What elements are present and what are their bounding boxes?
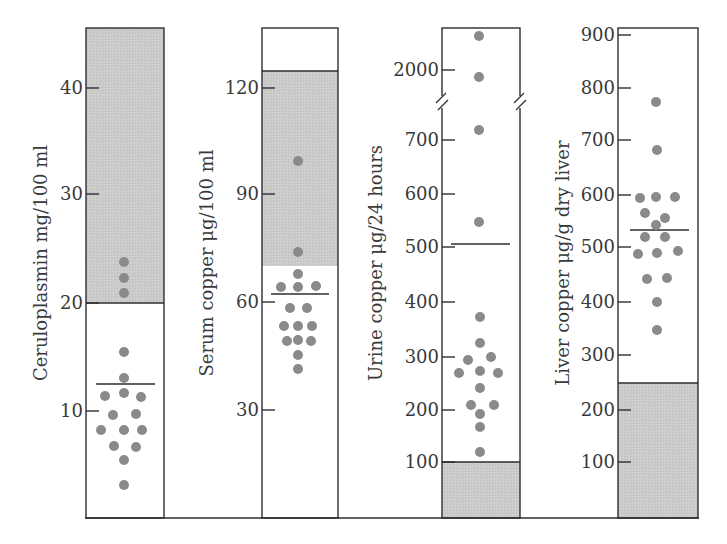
y-axis-title: Liver copper μg/g dry liver: [552, 140, 573, 386]
data-point: [651, 97, 661, 107]
y-axis-title: Ceruloplasmin mg/100 ml: [30, 145, 51, 381]
data-point: [311, 281, 321, 291]
y-tick-label: 2000: [393, 59, 439, 80]
data-point: [475, 409, 485, 419]
y-axis-title: Serum copper μg/100 ml: [196, 149, 217, 376]
normal-range-shade: [618, 383, 698, 518]
data-point: [474, 125, 484, 135]
data-point: [293, 269, 303, 279]
data-point: [475, 338, 485, 348]
data-point: [463, 355, 473, 365]
data-point: [493, 368, 503, 378]
y-tick-label: 10: [60, 400, 83, 421]
data-point: [454, 368, 464, 378]
data-point: [109, 441, 119, 451]
y-tick-label: 600: [405, 183, 439, 204]
y-tick-label: 100: [405, 451, 439, 472]
panel-frame: [442, 28, 520, 518]
data-point: [307, 321, 317, 331]
y-tick-label: 300: [405, 346, 439, 367]
data-point: [651, 220, 661, 230]
data-point: [673, 246, 683, 256]
data-point: [489, 400, 499, 410]
data-point: [293, 364, 303, 374]
data-point: [119, 388, 129, 398]
data-point: [652, 248, 662, 258]
y-tick-label: 100: [581, 451, 615, 472]
panel-2: 120906030Serum copper μg/100 ml: [196, 28, 339, 518]
y-tick-label: 200: [581, 399, 615, 420]
data-point: [119, 373, 129, 383]
data-point: [131, 442, 141, 452]
copper-metabolism-chart: 40302010Ceruloplasmin mg/100 ml120906030…: [0, 0, 727, 544]
data-point: [119, 455, 129, 465]
data-point: [276, 282, 286, 292]
y-tick-label: 700: [581, 129, 615, 150]
data-point: [662, 273, 672, 283]
data-point: [100, 391, 110, 401]
data-point: [282, 336, 292, 346]
panels-group: 40302010Ceruloplasmin mg/100 ml120906030…: [30, 24, 698, 518]
data-point: [660, 213, 670, 223]
data-point: [293, 350, 303, 360]
y-tick-label: 30: [60, 183, 83, 204]
y-tick-label: 500: [405, 236, 439, 257]
data-point: [640, 208, 650, 218]
data-point: [474, 72, 484, 82]
data-point: [475, 366, 485, 376]
data-point: [119, 288, 129, 298]
data-point: [119, 480, 129, 490]
y-tick-label: 900: [581, 24, 615, 45]
data-point: [131, 409, 141, 419]
data-point: [652, 325, 662, 335]
panel-1: 40302010Ceruloplasmin mg/100 ml: [30, 28, 164, 518]
data-point: [640, 232, 650, 242]
data-point: [137, 425, 147, 435]
normal-range-shade: [262, 71, 338, 266]
y-tick-label: 200: [405, 399, 439, 420]
data-point: [652, 145, 662, 155]
y-tick-label: 400: [405, 291, 439, 312]
y-axis-title: Urine copper μg/24 hours: [365, 145, 386, 381]
data-point: [119, 257, 129, 267]
data-point: [474, 31, 484, 41]
data-point: [119, 273, 129, 283]
data-point: [293, 156, 303, 166]
data-point: [651, 192, 661, 202]
data-point: [670, 192, 680, 202]
data-point: [285, 303, 295, 313]
data-point: [293, 335, 303, 345]
data-point: [633, 249, 643, 259]
y-tick-label: 90: [236, 183, 259, 204]
data-point: [475, 312, 485, 322]
data-point: [293, 321, 303, 331]
data-point: [474, 217, 484, 227]
y-tick-label: 800: [581, 77, 615, 98]
data-point: [279, 321, 289, 331]
data-point: [306, 336, 316, 346]
data-point: [293, 247, 303, 257]
data-point: [642, 274, 652, 284]
data-point: [119, 425, 129, 435]
y-tick-label: 40: [60, 77, 83, 98]
data-point: [302, 303, 312, 313]
data-point: [293, 282, 303, 292]
data-point: [136, 392, 146, 402]
data-point: [660, 232, 670, 242]
y-tick-label: 300: [581, 344, 615, 365]
panel-4: 900800700600500400300200100Liver copper …: [552, 24, 699, 518]
y-tick-label: 600: [581, 184, 615, 205]
data-point: [486, 352, 496, 362]
y-tick-label: 500: [581, 236, 615, 257]
y-tick-label: 30: [236, 399, 259, 420]
data-point: [635, 193, 645, 203]
data-point: [119, 347, 129, 357]
data-point: [475, 383, 485, 393]
data-point: [466, 400, 476, 410]
y-tick-label: 60: [236, 291, 259, 312]
y-tick-label: 20: [60, 292, 83, 313]
data-point: [475, 422, 485, 432]
data-point: [108, 410, 118, 420]
data-point: [96, 425, 106, 435]
normal-range-shade: [442, 462, 520, 518]
